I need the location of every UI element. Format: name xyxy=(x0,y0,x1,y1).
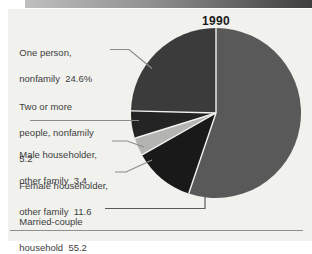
leader-female-householder xyxy=(115,160,152,172)
leader-married-couple xyxy=(105,191,205,209)
label-married-couple: Married-couple household 55.2 xyxy=(14,202,87,254)
label-line: Male householder, xyxy=(19,149,97,160)
label-line: nonfamily 24.6% xyxy=(19,73,92,84)
label-line: Married-couple xyxy=(19,216,82,227)
leader-one-person xyxy=(110,50,152,69)
label-line: household 55.2 xyxy=(19,242,87,253)
label-line: Female householder, xyxy=(19,180,108,191)
label-line: Two or more xyxy=(19,101,72,112)
bottom-divider xyxy=(10,230,303,231)
label-line: One person, xyxy=(19,47,71,58)
leader-male-householder xyxy=(112,141,144,147)
label-one-person-nonfamily: One person, nonfamily 24.6% xyxy=(14,33,92,85)
